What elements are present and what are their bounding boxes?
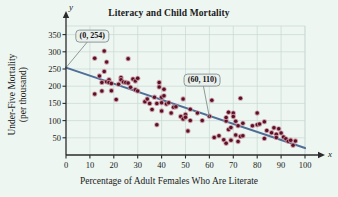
data-point [263,137,267,141]
data-point [155,123,159,127]
data-point [102,49,106,53]
data-point [272,126,276,130]
x-tick-label: 20 [110,160,119,170]
data-point [126,81,130,85]
data-point [114,98,118,102]
data-point [275,136,279,140]
x-axis-letter: x [328,149,332,159]
data-point [291,144,295,148]
data-point [93,92,97,96]
data-point [241,134,245,138]
data-point [241,122,245,126]
x-axis-arrowhead [318,152,325,158]
data-point [196,111,200,115]
data-point [162,94,166,98]
data-point [100,81,104,85]
data-point [181,97,185,101]
data-point [200,119,204,123]
data-point [110,82,114,86]
data-point [258,122,262,126]
data-point [224,116,228,120]
data-point [129,85,133,89]
data-point [167,101,171,105]
data-point [210,99,214,103]
data-point [263,120,267,124]
data-point [270,131,274,135]
y-axis-title: Under-Five Mortality (per thousand) [7,25,28,165]
data-point [227,111,231,115]
data-point [251,124,255,128]
y-axis-title-line2: (per thousand) [18,25,29,165]
x-axis-title: Percentage of Adult Females Who Are Lite… [0,176,338,186]
x-tick-label: 100 [299,160,312,170]
data-point [169,111,173,115]
data-point [105,60,109,64]
data-point [232,115,236,119]
data-point [100,89,104,93]
data-point [239,96,243,100]
data-point [160,101,164,105]
y-tick-label: 200 [48,81,61,91]
data-point [236,124,240,128]
chart-title: Literacy and Child Mortality [0,8,338,18]
y-axis-title-line1: Under-Five Mortality [7,54,17,136]
data-point [189,107,193,111]
x-tick-label: 50 [181,160,190,170]
data-point [136,77,140,81]
x-tick-label: 30 [133,160,142,170]
y-tick-label: 100 [48,116,61,126]
x-tick-label: 40 [157,160,166,170]
data-point [98,74,102,78]
x-tick-label: 0 [64,160,68,170]
data-point [279,131,283,135]
y-axis-letter: y [69,2,73,12]
data-point [146,97,150,101]
data-point [126,57,130,61]
y-tick-label: 150 [48,98,61,108]
chart-figure: Literacy and Child Mortality Percentage … [0,0,338,197]
data-point [148,102,152,106]
data-point [110,89,114,93]
data-point [136,89,140,93]
data-point [265,129,269,133]
data-point [277,127,281,131]
data-point [155,102,159,106]
data-point [162,88,166,92]
y-tick-label: 50 [53,133,62,143]
x-tick-label: 70 [229,160,238,170]
data-point [157,85,161,89]
x-tick-label: 60 [205,160,214,170]
data-point [157,81,161,85]
data-point [229,126,233,130]
data-point [174,105,178,109]
data-point [212,136,216,140]
data-point [224,142,228,146]
x-tick-label: 10 [86,160,95,170]
x-tick-label: 80 [253,160,262,170]
data-point [234,133,238,137]
data-point [160,109,164,113]
data-point [236,140,240,144]
data-point [186,129,190,133]
data-point [229,138,233,142]
data-point [294,139,298,143]
annotation-callout: (0, 254) [76,30,109,43]
data-point [189,119,193,123]
y-tick-label: 300 [48,47,61,57]
data-point [150,108,154,112]
y-tick-label: 250 [48,64,61,74]
data-point [93,57,97,61]
x-tick-label: 90 [277,160,286,170]
y-tick-label: 350 [48,30,61,40]
annotation-callout: (60, 110) [184,74,221,87]
data-point [102,70,106,74]
data-point [217,134,221,138]
data-point [234,120,238,124]
data-point [289,138,293,142]
data-point [153,95,157,99]
data-point [255,111,259,115]
data-point [117,82,121,86]
data-point [184,115,188,119]
